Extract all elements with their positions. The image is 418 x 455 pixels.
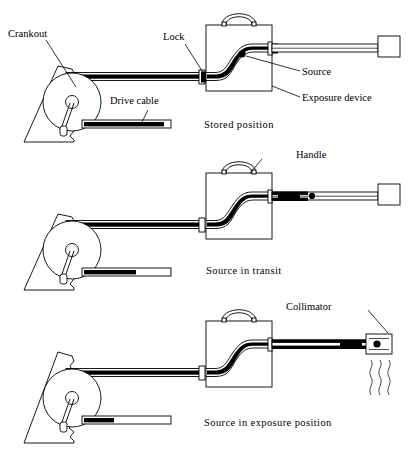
leader-lock (185, 44, 204, 74)
radiography-diagram: Crankout Drive cable Lock Source Exposur… (0, 0, 418, 455)
label-exposure-device: Exposure device (302, 92, 372, 103)
exit-tube-2 (268, 184, 400, 205)
radiation-rays (370, 360, 390, 395)
panel-transit: Handle Source in transit (24, 149, 400, 290)
label-source: Source (302, 66, 331, 77)
drive-cable-3 (82, 416, 171, 424)
label-drive-cable: Drive cable (110, 95, 159, 106)
label-lock: Lock (163, 31, 185, 42)
drive-cable-1 (82, 120, 171, 128)
caption-source-in-exposure-position: Source in exposure position (204, 417, 332, 428)
panel-exposure: Collimator Source in exposure position (24, 301, 392, 443)
drive-cable-2 (82, 268, 171, 276)
source-pigtail-3 (340, 340, 362, 347)
source-marker-2 (309, 193, 315, 199)
panel-stored: Crankout Drive cable Lock Source Exposur… (8, 14, 400, 142)
leader-exposure-device (272, 86, 300, 97)
label-crankout: Crankout (8, 28, 47, 39)
label-collimator: Collimator (286, 301, 332, 312)
caption-source-in-transit: Source in transit (206, 265, 282, 276)
caption-stored-position: Stored position (204, 119, 274, 130)
collimator (366, 334, 392, 354)
source-marker-3 (373, 340, 380, 347)
exit-tube-1 (268, 36, 400, 57)
source-marker-1 (238, 50, 245, 57)
leader-collimator (368, 310, 388, 333)
label-handle: Handle (296, 149, 327, 160)
source-pigtail-2 (278, 192, 300, 199)
exit-tube-3 (268, 338, 367, 351)
